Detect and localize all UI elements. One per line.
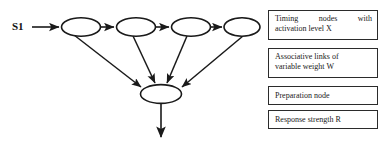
- figure-canvas: S1 Timing nodes with activation level X …: [0, 0, 392, 150]
- legend-item-response-strength: Response strength R: [268, 110, 378, 129]
- legend-item-timing-nodes-line-2: activation level X: [275, 24, 372, 34]
- legend-gap-1: [268, 40, 378, 48]
- associative-link-t2-p1: [133, 36, 155, 83]
- legend-gap-2: [268, 78, 378, 86]
- legend: Timing nodes with activation level X Ass…: [268, 10, 378, 129]
- legend-item-associative-links-line-2: variable weight W: [275, 62, 372, 72]
- legend-item-associative-links: Associative links of variable weight W: [268, 48, 378, 78]
- legend-item-timing-nodes-line-1: Timing nodes with: [275, 14, 372, 24]
- associative-link-t4-p1: [182, 36, 243, 87]
- associative-link-t3-p1: [167, 36, 187, 83]
- legend-item-preparation-node-label: Preparation node: [275, 91, 329, 101]
- legend-item-associative-links-line-1: Associative links of: [275, 52, 372, 62]
- legend-item-preparation-node: Preparation node: [268, 86, 378, 105]
- preparation-node[interactable]: [141, 85, 182, 104]
- timing-node-2[interactable]: [117, 18, 156, 36]
- legend-item-timing-nodes: Timing nodes with activation level X: [268, 10, 378, 40]
- timing-node-4[interactable]: [224, 18, 260, 36]
- timing-node-3[interactable]: [172, 18, 211, 36]
- legend-item-response-strength-label: Response strength R: [275, 115, 341, 125]
- timing-node-1[interactable]: [62, 18, 101, 36]
- input-stimulus-label: S1: [12, 20, 24, 33]
- associative-link-t1-p1: [74, 35, 141, 87]
